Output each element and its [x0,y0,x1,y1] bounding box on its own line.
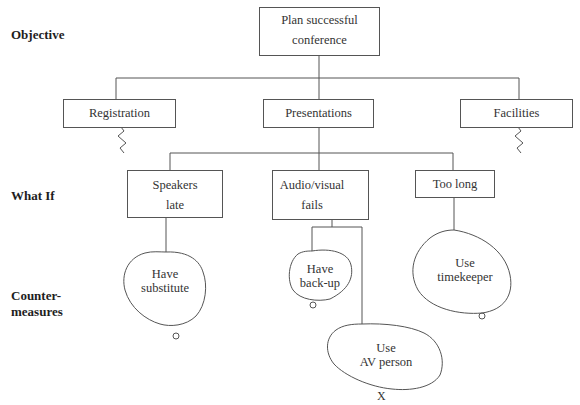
objective-line1: Plan successful [259,10,380,30]
subgoal-facilities-label: Facilities [460,103,573,123]
whatif-too-long-text: Too long [415,174,495,194]
countermeasure-use-av-person-line2: AV person [340,355,432,369]
whatif-speakers-late-line1: Speakers [127,175,223,195]
countermeasure-use-timekeeper-line2: timekeeper [419,270,511,284]
row-label-countermeasures-line1: Counter- [11,288,63,304]
not-feasible-mark-icon: X [377,389,386,404]
row-label-countermeasures-line2: measures [11,304,63,320]
row-label-what-if: What If [11,188,55,204]
countermeasure-have-substitute-line2: substitute [125,281,205,295]
countermeasure-have-backup-line2: back-up [289,276,351,290]
whatif-speakers-late-line2: late [127,195,223,215]
countermeasure-have-substitute-line1: Have [125,267,205,281]
countermeasure-use-av-person-line1: Use [340,341,432,355]
feasible-mark-icon [479,313,485,319]
countermeasure-use-av-person: Use AV person [340,341,432,369]
whatif-av-fails-text: Audio/visual fails [262,175,362,215]
objective-line2: conference [259,30,380,50]
whatif-av-fails-line1: Audio/visual [262,175,362,195]
subgoal-presentations-label: Presentations [263,103,374,123]
countermeasure-use-timekeeper: Use timekeeper [419,256,511,284]
countermeasure-have-substitute: Have substitute [125,267,205,295]
whatif-av-fails-line2: fails [262,195,362,215]
row-label-countermeasures: Counter- measures [11,288,63,320]
zigzag-registration-icon [118,127,126,153]
feasible-mark-icon [173,333,179,339]
countermeasure-have-backup: Have back-up [289,262,351,290]
countermeasure-have-backup-line1: Have [289,262,351,276]
whatif-speakers-late-text: Speakers late [127,175,223,215]
objective-text: Plan successful conference [259,10,380,50]
row-label-objective: Objective [11,27,64,43]
feasible-mark-icon [310,302,316,308]
subgoal-registration-label: Registration [63,103,176,123]
zigzag-facilities-icon [515,127,523,153]
countermeasure-use-timekeeper-line1: Use [419,256,511,270]
